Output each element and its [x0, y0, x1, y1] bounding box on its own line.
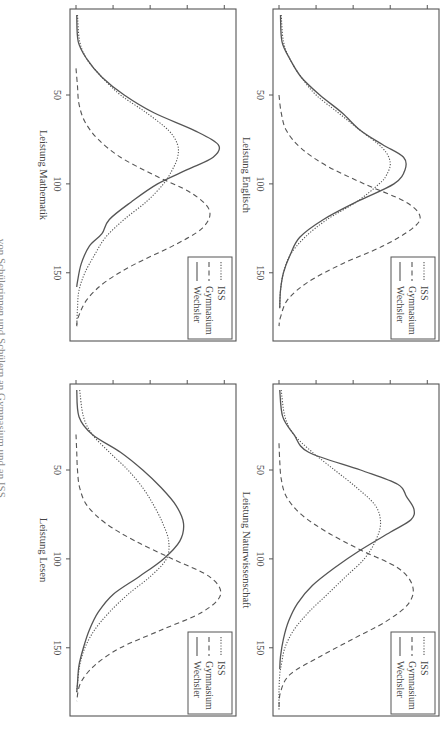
x-tick-label: 50 [52, 90, 63, 100]
legend-label: Gymnasium [407, 286, 418, 335]
series-line-wechsler [77, 390, 184, 692]
chart-panel-englisch: 50100150Leistung Englisch0.0000.0050.010… [228, 5, 441, 379]
legend-label: ISS [216, 286, 227, 300]
x-axis-label: Leistung Mathematik [38, 130, 49, 221]
density-plot: 50100150Leistung Englisch0.0000.0050.010… [228, 5, 441, 375]
legend-label: ISS [419, 286, 430, 300]
x-tick-label: 150 [255, 640, 266, 655]
x-tick-label: 150 [52, 640, 63, 655]
legend: ISSGymnasiumWechsler [391, 632, 435, 714]
legend-label: ISS [419, 661, 430, 675]
density-plot: 50100150Leistung Lesen0.0000.0050.0100.0… [25, 380, 240, 750]
x-tick-label: 50 [255, 465, 266, 475]
legend: ISSGymnasiumWechsler [391, 257, 435, 339]
figure-caption-partial: … von Schülerinnen und Schülern an Gymna… [0, 225, 8, 750]
x-tick-label: 150 [255, 265, 266, 280]
legend-label: Gymnasium [204, 286, 215, 335]
density-plot: 50100150Leistung Naturwissenschaft0.0000… [228, 380, 441, 750]
x-tick-label: 100 [52, 176, 63, 191]
series-line-wechsler [77, 15, 220, 287]
legend-label: Wechsler [192, 286, 203, 324]
x-tick-label: 50 [52, 465, 63, 475]
x-axis-label: Leistung Naturwissenschaft [241, 492, 252, 609]
legend: ISSGymnasiumWechsler [188, 257, 232, 339]
x-axis-label: Leistung Englisch [241, 137, 252, 214]
legend-label: Wechsler [192, 661, 203, 699]
series-line-iss [279, 390, 381, 710]
legend-label: ISS [216, 661, 227, 675]
series-line-wechsler [280, 15, 407, 308]
density-plot: 50100150Leistung Mathematik0.0000.0050.0… [25, 5, 240, 375]
x-tick-label: 100 [52, 551, 63, 566]
legend-label: Gymnasium [407, 661, 418, 710]
chart-panel-lesen: 50100150Leistung Lesen0.0000.0050.0100.0… [25, 380, 240, 750]
x-tick-label: 50 [255, 90, 266, 100]
chart-panel-naturwissenschaft: 50100150Leistung Naturwissenschaft0.0000… [228, 380, 441, 750]
caption-text: … von Schülerinnen und Schülern an Gymna… [0, 225, 8, 498]
x-tick-label: 150 [52, 265, 63, 280]
x-tick-label: 100 [255, 176, 266, 191]
series-line-iss [280, 15, 391, 308]
series-line-iss [77, 15, 179, 326]
chart-panel-mathematik: 50100150Leistung Mathematik0.0000.0050.0… [25, 5, 240, 379]
x-tick-label: 100 [255, 551, 266, 566]
legend-label: Wechsler [395, 286, 406, 324]
legend: ISSGymnasiumWechsler [188, 632, 232, 714]
legend-label: Wechsler [395, 661, 406, 699]
series-line-wechsler [280, 390, 415, 669]
legend-label: Gymnasium [204, 661, 215, 710]
x-axis-label: Leistung Lesen [38, 518, 49, 583]
